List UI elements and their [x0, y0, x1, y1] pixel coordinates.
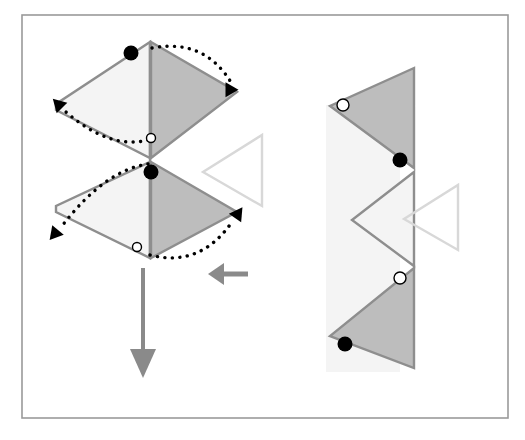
- fold-arrow-lower-left-head: [44, 225, 64, 245]
- dot-hollow-mid: [147, 134, 156, 143]
- ghost-outline-triangle-left-group: [203, 135, 262, 206]
- ghost-outline-triangle-left: [203, 135, 262, 206]
- result-down-arrow-head: [130, 349, 156, 378]
- upper-light-quad: [56, 42, 150, 158]
- folded-state-group: [326, 68, 458, 372]
- paper-folding-diagram: [0, 0, 525, 440]
- lower-dark-triangle: [151, 162, 237, 258]
- transition-arrow-left: [208, 263, 248, 285]
- dot-hollow-lower: [394, 272, 406, 284]
- result-down-arrow: [130, 268, 156, 378]
- dot-hollow-top: [337, 99, 349, 111]
- transition-arrow-left-head: [208, 263, 224, 285]
- dot-filled-bottom: [338, 337, 353, 352]
- dot-filled-upper: [393, 153, 408, 168]
- dot-filled-top: [124, 46, 139, 61]
- unfolded-state-group: [56, 42, 237, 258]
- upper-dark-triangle: [151, 42, 237, 158]
- fold-arrow-bottom-right-head: [229, 203, 249, 222]
- dot-hollow-bottom: [133, 243, 142, 252]
- dot-filled-mid: [144, 165, 159, 180]
- figure-canvas: [0, 0, 525, 440]
